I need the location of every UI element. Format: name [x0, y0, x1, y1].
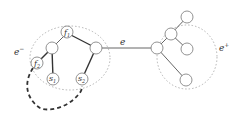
node-r2 [181, 11, 193, 23]
label-e-plus: e+ [219, 41, 229, 53]
node-r3 [181, 43, 193, 55]
node-r1 [165, 28, 177, 40]
node-r0 [151, 42, 163, 54]
edge-r0-r4 [157, 48, 186, 80]
node-b [90, 42, 102, 54]
node-r4 [180, 74, 192, 86]
graph-diagram: f1 f2 s1 s2 e− e e+ [0, 0, 240, 118]
node-a [46, 42, 58, 54]
label-e-minus: e− [14, 45, 24, 57]
label-bridge-e: e [120, 37, 125, 47]
